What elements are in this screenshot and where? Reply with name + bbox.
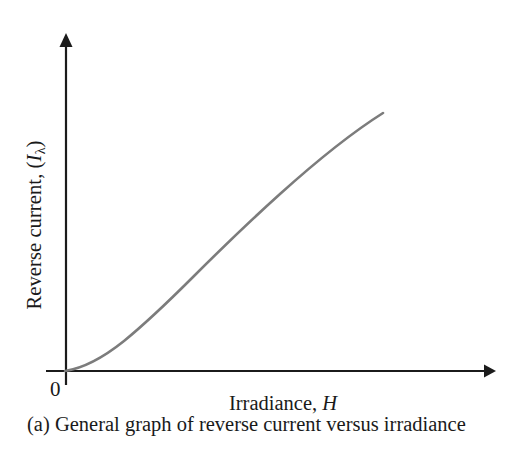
y-axis-symbol-subscript: λ <box>33 147 48 154</box>
origin-label: 0 <box>50 379 61 400</box>
y-axis-arrowhead-icon <box>60 33 73 47</box>
y-axis-symbol: I <box>23 155 45 162</box>
x-axis-label-text: Irradiance, <box>229 392 322 414</box>
y-axis-label-text: Reverse current, ( <box>23 161 45 309</box>
figure-container: Reverse current, (Iλ) Irradiance, H 0 (a… <box>0 0 531 450</box>
x-axis-label: Irradiance, H <box>229 393 337 414</box>
y-axis-label-close: ) <box>23 140 45 147</box>
y-axis-label: Reverse current, (Iλ) <box>24 140 48 309</box>
reverse-current-curve <box>65 113 383 371</box>
x-axis-symbol: H <box>322 392 337 414</box>
x-axis-arrowhead-icon <box>484 365 496 378</box>
figure-caption: (a) General graph of reverse current ver… <box>27 414 466 435</box>
reverse-current-vs-irradiance-plot <box>0 0 531 450</box>
